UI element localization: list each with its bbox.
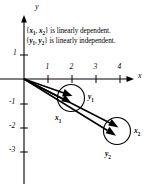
- vector-y2: [24, 79, 116, 136]
- vector-label-x2-sub: 2: [138, 131, 141, 137]
- vector-label-y2: y2: [105, 149, 111, 160]
- vector-label-y1-sub: 1: [91, 97, 94, 103]
- caption-independent-tail: } is linearly independent.: [44, 37, 115, 45]
- y-tick-label-neg2: -2: [9, 121, 15, 130]
- caption-dependent-vec-a-sub: 1: [33, 30, 36, 36]
- y-tick-label-neg3: -3: [9, 145, 15, 154]
- x-tick-label-3: 3: [94, 62, 98, 71]
- vector-label-y2-sub: 2: [108, 154, 111, 160]
- y-tick-label-1: 1: [13, 48, 17, 57]
- y-axis-label: y: [35, 2, 39, 11]
- x-tick-label-1: 1: [46, 62, 50, 71]
- vector-label-y1: y1: [88, 92, 94, 103]
- vector-label-x1-sub: 1: [59, 118, 62, 124]
- x-axis: [0, 75, 134, 83]
- caption-independent-vec-a-sub: 1: [33, 40, 36, 46]
- y-tick-label-neg1: -1: [9, 97, 15, 106]
- vector-label-x2: x2: [134, 126, 140, 137]
- x-tick-label-2: 2: [70, 62, 74, 71]
- x-axis-label: x: [138, 71, 142, 80]
- vector-x2: [24, 79, 119, 127]
- caption-independent: {y1, y2} is linearly independent.: [26, 37, 116, 46]
- caption-dependent: {x1, x2} is linearly dependent.: [26, 27, 111, 36]
- x-tick-label-4: 4: [118, 62, 122, 71]
- vector-label-x1: x1: [55, 113, 61, 124]
- caption-dependent-tail: } is linearly dependent.: [45, 27, 111, 35]
- vector-diagram-figure: y x 1 2 3 4 1 -1 -2 -3 {x1, x2} is linea…: [0, 0, 153, 186]
